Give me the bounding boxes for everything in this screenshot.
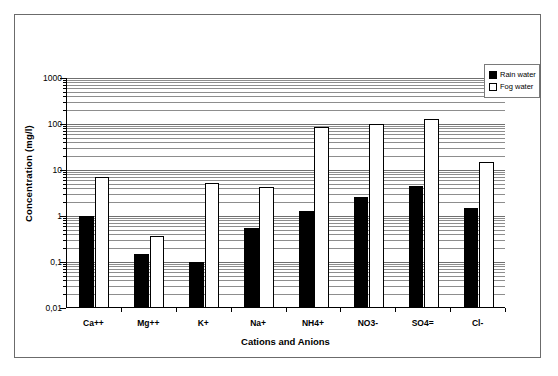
x-tick-label: Mg++ (118, 318, 178, 328)
x-tick-mark (231, 308, 232, 312)
gridline (67, 128, 505, 129)
bar-rain-water (299, 211, 314, 308)
gridline (67, 223, 505, 224)
gridline (67, 188, 505, 189)
gridline (67, 226, 505, 227)
legend-label-rain-water: Rain water (500, 70, 536, 79)
gridline (67, 220, 505, 221)
gridline (67, 294, 505, 295)
bar-fog-water (150, 236, 165, 308)
bar-rain-water (244, 228, 259, 308)
y-tick-label: 1 (28, 212, 62, 220)
gridline (67, 262, 505, 263)
gridline (67, 148, 505, 149)
gridline (67, 177, 505, 178)
gridline (67, 202, 505, 203)
gridline (67, 92, 505, 93)
gridline (67, 272, 505, 273)
y-tick-label: 1000 (28, 74, 62, 82)
gridline (67, 138, 505, 139)
gridline (67, 102, 505, 103)
gridline (67, 126, 505, 127)
gridline (67, 216, 505, 217)
x-tick-mark (450, 308, 451, 312)
x-tick-mark (340, 308, 341, 312)
x-tick-mark (505, 308, 506, 312)
gridline (67, 276, 505, 277)
gridline (67, 80, 505, 81)
bar-rain-water (354, 197, 369, 308)
gridline (67, 124, 505, 125)
y-axis-labels: 10001001010,10,01 (26, 0, 62, 376)
gridline (67, 240, 505, 241)
gridline (67, 286, 505, 287)
gridline (67, 85, 505, 86)
gridline (67, 184, 505, 185)
bar-rain-water (189, 262, 204, 308)
gridline (67, 172, 505, 173)
gridline (67, 180, 505, 181)
y-tick-label: 0,1 (28, 258, 62, 266)
gridline (67, 110, 505, 111)
filled-square-icon (489, 71, 497, 79)
gridline (67, 194, 505, 195)
bar-rain-water (409, 186, 424, 308)
legend-item-fog-water: Fog water (489, 82, 536, 91)
empty-square-icon (489, 83, 497, 91)
x-tick-label: Ca++ (63, 318, 123, 328)
bar-fog-water (369, 124, 384, 308)
plot-area (66, 78, 505, 308)
gridline (67, 218, 505, 219)
chart-legend: Rain water Fog water (484, 64, 540, 98)
bar-fog-water (479, 162, 494, 308)
bar-fog-water (259, 187, 274, 308)
gridline (67, 264, 505, 265)
gridline (67, 88, 505, 89)
x-tick-mark (395, 308, 396, 312)
x-tick-label: SO4= (393, 318, 453, 328)
y-tick-mark (60, 308, 66, 309)
bar-fog-water (314, 127, 329, 308)
x-axis-title: Cations and Anions (66, 336, 505, 347)
bar-fog-water (424, 119, 439, 308)
gridline (67, 230, 505, 231)
gridline (67, 134, 505, 135)
x-tick-label: NO3- (338, 318, 398, 328)
bar-rain-water (134, 254, 149, 308)
gridline (67, 156, 505, 157)
gridline (67, 82, 505, 83)
y-tick-label: 0,01 (28, 304, 62, 312)
legend-item-rain-water: Rain water (489, 70, 536, 79)
gridline (67, 248, 505, 249)
bar-rain-water (79, 216, 94, 308)
gridline (67, 280, 505, 281)
x-tick-label: Na+ (228, 318, 288, 328)
legend-label-fog-water: Fog water (500, 82, 533, 91)
gridline (67, 96, 505, 97)
gridline (67, 266, 505, 267)
gridline (67, 174, 505, 175)
gridline (67, 142, 505, 143)
gridline (67, 234, 505, 235)
x-tick-mark (121, 308, 122, 312)
bar-fog-water (205, 183, 220, 308)
gridline (67, 131, 505, 132)
x-tick-label: Cl- (448, 318, 508, 328)
x-tick-mark (176, 308, 177, 312)
y-tick-label: 100 (28, 120, 62, 128)
gridline (67, 269, 505, 270)
bar-fog-water (95, 177, 110, 308)
gridline (67, 170, 505, 171)
x-tick-label: NH4+ (283, 318, 343, 328)
bar-rain-water (464, 208, 479, 308)
x-tick-mark (286, 308, 287, 312)
chart-figure: Concentration (mg/l) 10001001010,10,01 C… (0, 0, 558, 376)
x-tick-label: K+ (173, 318, 233, 328)
y-tick-label: 10 (28, 166, 62, 174)
gridline (67, 78, 505, 79)
